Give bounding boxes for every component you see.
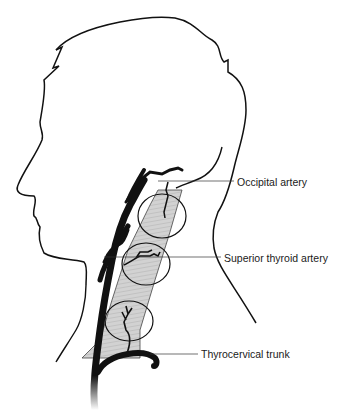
front-neck-outline xyxy=(56,285,86,362)
head-outline xyxy=(17,47,86,285)
label-superior-thyroid-artery: Superior thyroid artery xyxy=(224,252,328,264)
label-occipital-artery: Occipital artery xyxy=(237,176,307,188)
label-thyrocervical-trunk: Thyrocervical trunk xyxy=(201,348,290,360)
anatomy-diagram xyxy=(0,0,345,418)
jaw-outline xyxy=(176,147,222,188)
